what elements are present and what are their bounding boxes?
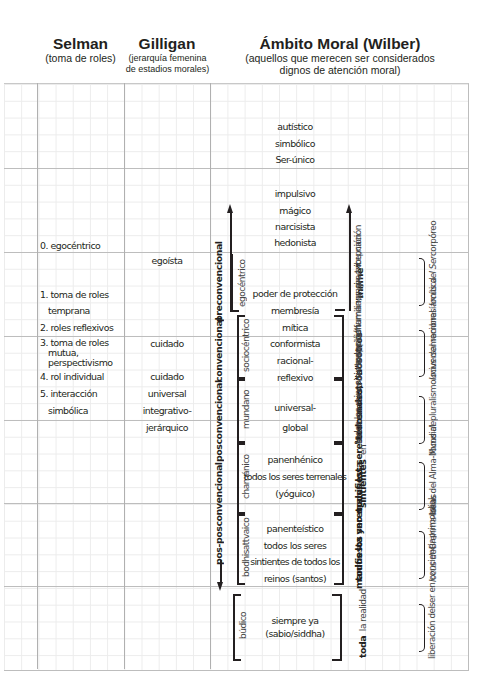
wilber-row5-line1: universal- [245, 400, 345, 417]
locus-line: pluralismo [428, 380, 439, 421]
locus-line: Mundial [428, 425, 439, 456]
wilber-row6-line1: panenhénico [243, 452, 347, 469]
wilber-row4-line1: mítica [245, 320, 345, 337]
gilligan-integrativo: integrativo- [124, 403, 210, 420]
selman-stage-1: 1. toma de roles [40, 287, 109, 304]
selman-stage-4: 4. rol individual [40, 369, 104, 386]
column-divider [37, 83, 38, 669]
wilber-row1-line2: simbólico [240, 136, 350, 153]
locus-line: liberación del [427, 607, 438, 659]
level-postconventional: posconvencional [213, 382, 224, 462]
selman-stage-2: 2. roles reflexivos [40, 320, 113, 337]
wilber-row6-line3: (yóguico) [243, 486, 347, 503]
column-divider [210, 83, 211, 669]
scope-realidad-bold: no manifiesta [353, 462, 365, 529]
row-divider [4, 168, 469, 169]
wilber-row7-line4: reinos (santos) [243, 571, 347, 588]
gilligan-header-subtitle-1: (jerarquía femenina [120, 53, 215, 64]
locus-line: mítica [428, 278, 439, 302]
locus-line: universal racional [428, 311, 439, 380]
wilber-row1-line1: autístico [240, 119, 350, 136]
scope-bracket [334, 514, 344, 585]
selman-stage-0: 0. egocéntrico [40, 238, 100, 255]
scope-realidad-line1: toda la realidad [353, 589, 365, 658]
level-post-postconventional: pos-posconvencional [213, 465, 224, 565]
wilber-row8-line2: (sabio/siddha) [245, 627, 345, 640]
wilber-row2-line1: impulsivo [240, 186, 350, 203]
wilber-row4-line4: reflexivo [245, 370, 345, 387]
scope-sintientes-line: todos los reinos, [353, 379, 364, 444]
curly-brace-icon [419, 462, 425, 510]
gilligan-jerarquico: jerárquico [124, 420, 210, 437]
gilligan-egoista: egoísta [124, 253, 210, 270]
scope-todos-nosotros-line: sin excepción [353, 235, 363, 290]
scope-realidad: toda la realidad manifiesta y no manifie… [353, 594, 365, 658]
wilber-row2-line2: mágico [240, 203, 350, 220]
locus-line: primordial [427, 498, 438, 538]
locus-line: corpóreo [428, 221, 439, 256]
curly-brace-icon [419, 258, 425, 306]
gilligan-header-title: Gilligan [124, 35, 210, 53]
level-preconventional: preconvencional [213, 248, 224, 322]
scope-bracket [334, 315, 344, 379]
wilber-row4-line3: racional- [245, 353, 345, 370]
gilligan-universal: universal [124, 386, 210, 403]
selman-stage-5-cont: simbólica [48, 403, 88, 420]
selman-header-subtitle: (toma de roles) [37, 52, 124, 64]
curly-brace-icon [419, 604, 425, 652]
wilber-header-subtitle-2: dignos de atención moral) [225, 64, 455, 76]
gilligan-cuidado: cuidado [124, 336, 210, 353]
scope-realidad-bold: manifiesta y [353, 529, 365, 589]
curly-brace-icon [419, 330, 425, 377]
scope-realidad-toda: toda [357, 636, 368, 658]
arrow-down-icon [217, 582, 223, 591]
scope-bracket [334, 379, 344, 443]
wilber-row3-line1: poder de protección [245, 286, 345, 303]
selman-stage-3-cont: perspectivismo [48, 357, 113, 369]
wilber-row1-line3: Ser-único [240, 152, 350, 169]
scope-bracket [335, 309, 345, 311]
wilber-header-title: Ámbito Moral (Wilber) [230, 35, 450, 53]
selman-header-title: Selman [37, 35, 124, 53]
scope-bracket [334, 443, 344, 514]
locus-liberacion: liberación del ser en conciencia primord… [427, 595, 438, 659]
level-conventional: convencional [213, 322, 224, 382]
wilber-row7-line1: panenteístico [243, 521, 347, 538]
wilber-row2-line4: hedonista [240, 235, 350, 252]
wilber-header-subtitle-1: (aquellos que merecen ser considerados [225, 52, 455, 64]
locus-line: ser en conciencia [427, 538, 438, 606]
wilber-row6-line2: todos los seres terrenales [243, 469, 347, 486]
curly-brace-icon [419, 531, 425, 579]
wilber-row5-line2: global [245, 420, 345, 437]
wilber-row2-line3: narcisista [240, 219, 350, 236]
wilber-row4-line2: conformista [245, 336, 345, 353]
arrow-line [349, 212, 351, 311]
curly-brace-icon [419, 396, 425, 444]
gilligan-cuidado-2: cuidado [124, 369, 210, 386]
selman-stage-5: 5. interacción [40, 386, 97, 403]
wilber-row7-line3: sintientes de todos los [243, 554, 347, 571]
wilber-row8-line1: siempre ya [245, 614, 345, 627]
scope-sintientes-line: sin excepción [353, 325, 364, 380]
wilber-row3-line2: membresía [245, 303, 345, 320]
scope-realidad-rest: la realidad [358, 589, 368, 631]
row-divider [4, 586, 469, 587]
scope-bracket [332, 594, 342, 661]
selman-stage-1-cont: temprana [48, 303, 90, 320]
wilber-row7-line2: todos los seres [243, 538, 347, 555]
gilligan-header-subtitle-2: de estadios morales) [120, 64, 215, 75]
scope-sintientes-en: en [358, 444, 368, 454]
